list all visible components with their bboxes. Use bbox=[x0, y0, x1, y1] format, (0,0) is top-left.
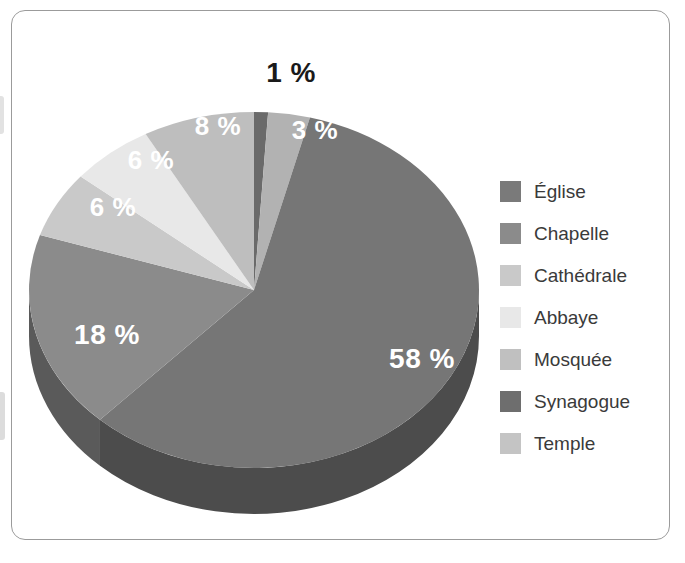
legend-item[interactable]: Chapelle bbox=[500, 212, 670, 254]
scan-edge-artifact-bottom bbox=[0, 392, 5, 440]
pie-slice-value-label: 3 % bbox=[292, 115, 338, 146]
legend-item-label: Synagogue bbox=[534, 392, 630, 411]
legend-item-label: Mosquée bbox=[534, 350, 612, 369]
legend-item-label: Chapelle bbox=[534, 224, 609, 243]
scan-edge-artifact-top bbox=[0, 96, 4, 134]
pie-top-faces bbox=[29, 112, 479, 468]
legend-item[interactable]: Temple bbox=[500, 422, 670, 464]
legend-item-label: Cathédrale bbox=[534, 266, 627, 285]
pie-slice-value-label: 1 % bbox=[266, 57, 316, 89]
legend-swatch-icon bbox=[500, 391, 521, 412]
legend-item[interactable]: Abbaye bbox=[500, 296, 670, 338]
legend-swatch-icon bbox=[500, 307, 521, 328]
legend-swatch-icon bbox=[500, 349, 521, 370]
legend-swatch-icon bbox=[500, 181, 521, 202]
legend-item-label: Abbaye bbox=[534, 308, 598, 327]
legend-swatch-icon bbox=[500, 265, 521, 286]
legend-item[interactable]: Cathédrale bbox=[500, 254, 670, 296]
pie-chart: 1 %3 %8 %6 %6 %18 %58 % bbox=[19, 35, 489, 515]
pie-slice-value-label: 8 % bbox=[195, 111, 241, 142]
pie-chart-svg bbox=[19, 35, 489, 515]
legend-item[interactable]: Synagogue bbox=[500, 380, 670, 422]
pie-slice-value-label: 58 % bbox=[389, 343, 455, 375]
pie-slice-value-label: 6 % bbox=[90, 192, 136, 223]
legend-swatch-icon bbox=[500, 223, 521, 244]
chart-area: 1 %3 %8 %6 %6 %18 %58 % ÉgliseChapelleCa… bbox=[11, 10, 670, 540]
pie-chart-page: 1 %3 %8 %6 %6 %18 %58 % ÉgliseChapelleCa… bbox=[0, 0, 685, 563]
legend-item[interactable]: Mosquée bbox=[500, 338, 670, 380]
pie-slice-value-label: 18 % bbox=[74, 319, 140, 351]
legend-item[interactable]: Église bbox=[500, 170, 670, 212]
legend-swatch-icon bbox=[500, 433, 521, 454]
pie-slice-value-label: 6 % bbox=[128, 145, 174, 176]
legend-item-label: Temple bbox=[534, 434, 595, 453]
legend-item-label: Église bbox=[534, 182, 586, 201]
chart-legend: ÉgliseChapelleCathédraleAbbayeMosquéeSyn… bbox=[500, 170, 670, 464]
